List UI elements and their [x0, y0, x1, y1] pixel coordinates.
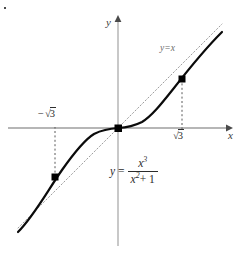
- x-axis-label: x: [228, 130, 233, 141]
- tick-label-neg-sqrt3: −√3: [38, 109, 56, 120]
- y-axis-label: y: [106, 17, 111, 28]
- marker-point-pos-sqrt3: [179, 76, 186, 83]
- radical-pos-sqrt3: √3: [172, 131, 184, 142]
- equation-numerator: x3: [134, 157, 151, 171]
- radicand: 3: [178, 129, 184, 141]
- equation-fraction: x3 x2+ 1: [128, 157, 158, 186]
- denominator-tail: + 1: [140, 173, 155, 185]
- marker-point-origin: [115, 125, 123, 133]
- equation-denominator: x2+ 1: [128, 171, 158, 186]
- numerator-exponent: 3: [143, 155, 147, 164]
- y-axis-arrowhead-icon: [115, 15, 122, 22]
- tick-label-pos-sqrt3: √3: [172, 131, 184, 142]
- asymptote-label: y=x: [160, 44, 175, 54]
- radicand: 3: [50, 107, 56, 119]
- equation-label: y = x3 x2+ 1: [110, 157, 158, 186]
- marker-point-neg-sqrt3: [52, 174, 59, 181]
- equation-lhs: y: [110, 165, 115, 177]
- math-figure-canvas: y x y=x −√3 √3 y = x3 x2+ 1: [0, 0, 247, 255]
- function-plot: [0, 0, 247, 255]
- equation-equals-sign: =: [118, 165, 125, 177]
- radical-neg-sqrt3: √3: [44, 109, 56, 120]
